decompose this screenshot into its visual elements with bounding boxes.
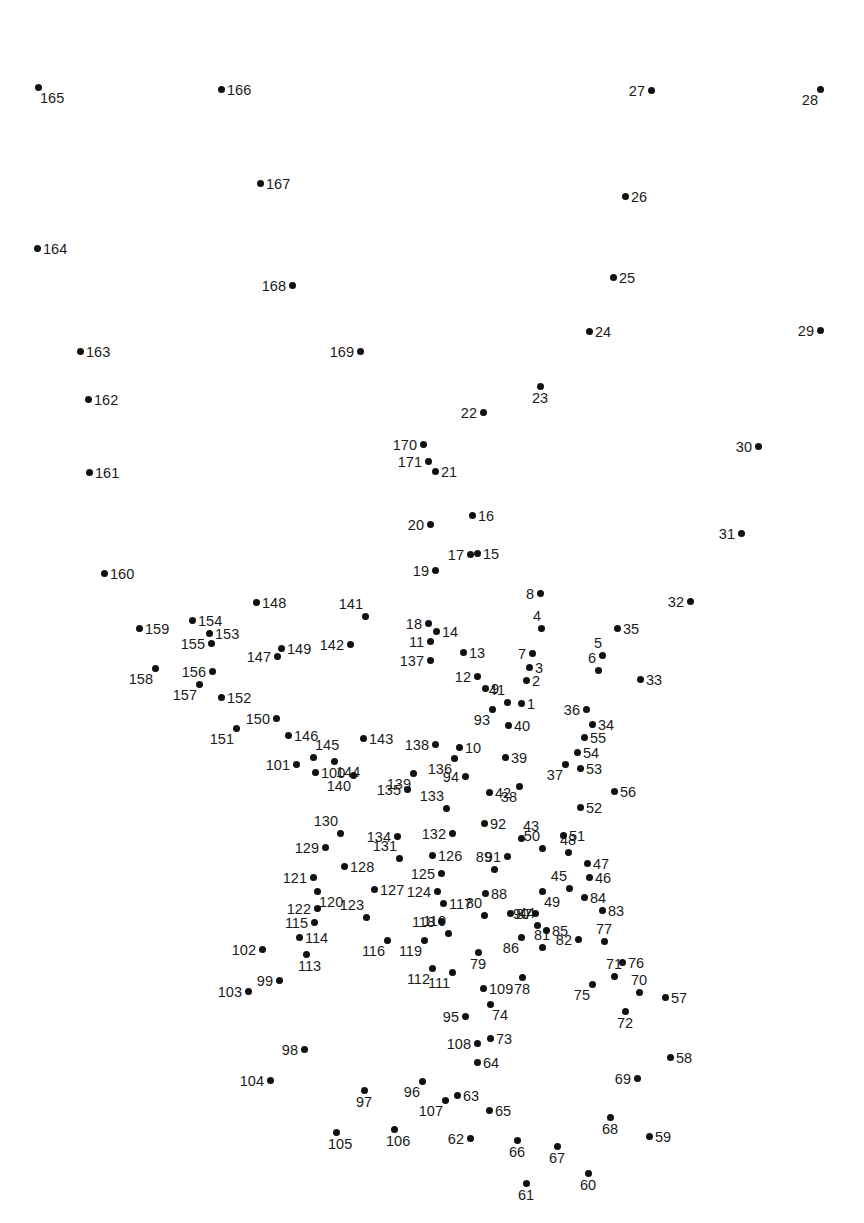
dot-label: 155 — [181, 637, 205, 652]
dot-label: 116 — [362, 944, 385, 959]
dot-label: 104 — [240, 1074, 264, 1089]
dot-marker-icon — [433, 628, 440, 635]
dot-label: 72 — [617, 1016, 633, 1031]
dot-label: 19 — [413, 564, 429, 579]
dot-label: 123 — [340, 898, 364, 913]
dot-marker-icon — [622, 1008, 629, 1015]
dot-marker-icon — [429, 852, 436, 859]
dot-marker-icon — [427, 638, 434, 645]
dot-label: 85 — [552, 924, 568, 939]
dot-label: 23 — [532, 391, 548, 406]
dot-marker-icon — [425, 620, 432, 627]
dot-label: 141 — [339, 597, 363, 612]
dot-label: 117 — [449, 897, 472, 912]
dot-marker-icon — [662, 994, 669, 1001]
dot-label: 18 — [406, 617, 422, 632]
dot-marker-icon — [396, 855, 403, 862]
dot-marker-icon — [101, 570, 108, 577]
dot-marker-icon — [85, 396, 92, 403]
dot-label: 76 — [628, 956, 644, 971]
dot-marker-icon — [460, 649, 467, 656]
dot-label: 149 — [287, 642, 311, 657]
dot-label: 133 — [420, 789, 444, 804]
dot-label: 163 — [86, 345, 110, 360]
dot-label: 83 — [608, 904, 624, 919]
dot-marker-icon — [481, 912, 488, 919]
dot-label: 36 — [564, 703, 580, 718]
dot-label: 167 — [266, 177, 290, 192]
dot-marker-icon — [347, 641, 354, 648]
dot-marker-icon — [523, 677, 530, 684]
dot-label: 162 — [94, 393, 118, 408]
dot-marker-icon — [519, 974, 526, 981]
dot-marker-icon — [462, 773, 469, 780]
dot-marker-icon — [482, 685, 489, 692]
dot-label: 65 — [495, 1104, 511, 1119]
dot-marker-icon — [646, 1133, 653, 1140]
dot-label: 146 — [294, 729, 318, 744]
dot-label: 102 — [232, 943, 256, 958]
dot-label: 12 — [455, 670, 471, 685]
dot-marker-icon — [566, 885, 573, 892]
dot-label: 16 — [478, 509, 494, 524]
dot-label: 6 — [588, 651, 596, 666]
dot-label: 138 — [405, 738, 429, 753]
dot-marker-icon — [474, 673, 481, 680]
dot-label: 114 — [305, 931, 328, 946]
dot-marker-icon — [293, 761, 300, 768]
dot-label: 92 — [490, 817, 506, 832]
dot-marker-icon — [296, 934, 303, 941]
dot-label: 56 — [620, 785, 636, 800]
dot-label: 52 — [586, 801, 602, 816]
dot-label: 63 — [463, 1089, 479, 1104]
dot-label: 118 — [412, 915, 435, 930]
dot-label: 109 — [489, 982, 513, 997]
dot-label: 161 — [95, 466, 119, 481]
dot-marker-icon — [278, 645, 285, 652]
dot-label: 20 — [408, 518, 424, 533]
dot-marker-icon — [189, 617, 196, 624]
dot-label: 4 — [533, 609, 541, 624]
dot-label: 160 — [110, 567, 134, 582]
dot-marker-icon — [361, 1087, 368, 1094]
dot-label: 156 — [182, 665, 206, 680]
dot-label: 113 — [298, 959, 321, 974]
dot-label: 15 — [483, 547, 499, 562]
dot-marker-icon — [817, 327, 824, 334]
dot-marker-icon — [253, 599, 260, 606]
dot-marker-icon — [276, 977, 283, 984]
dot-marker-icon — [245, 988, 252, 995]
dot-marker-icon — [491, 866, 498, 873]
dot-label: 1 — [527, 697, 535, 712]
dot-marker-icon — [462, 1013, 469, 1020]
dot-label: 119 — [399, 944, 422, 959]
dot-marker-icon — [454, 1092, 461, 1099]
dot-label: 154 — [198, 614, 222, 629]
dot-label: 58 — [676, 1051, 692, 1066]
dot-marker-icon — [312, 769, 319, 776]
dot-label: 158 — [129, 672, 153, 687]
dot-marker-icon — [611, 788, 618, 795]
dot-label: 107 — [419, 1104, 443, 1119]
dot-marker-icon — [285, 732, 292, 739]
dot-label: 59 — [655, 1130, 671, 1145]
dot-marker-icon — [504, 699, 511, 706]
dot-marker-icon — [504, 853, 511, 860]
dot-marker-icon — [432, 741, 439, 748]
dot-label: 142 — [320, 638, 344, 653]
dot-marker-icon — [482, 890, 489, 897]
dot-label: 74 — [492, 1008, 508, 1023]
dot-label: 147 — [247, 650, 271, 665]
dot-marker-icon — [362, 613, 369, 620]
dot-marker-icon — [648, 87, 655, 94]
dot-marker-icon — [574, 749, 581, 756]
dot-label: 144 — [336, 765, 360, 780]
dot-marker-icon — [474, 1059, 481, 1066]
dot-label: 132 — [422, 827, 446, 842]
dot-marker-icon — [577, 765, 584, 772]
dot-marker-icon — [529, 650, 536, 657]
dot-marker-icon — [543, 927, 550, 934]
dot-label: 69 — [615, 1072, 631, 1087]
dot-marker-icon — [687, 598, 694, 605]
dot-label: 93 — [474, 713, 490, 728]
